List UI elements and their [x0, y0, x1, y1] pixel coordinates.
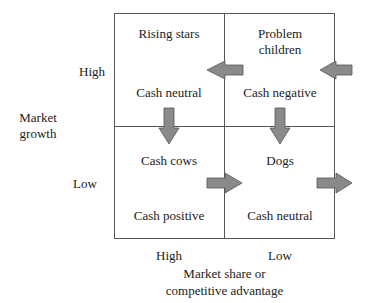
arrow-down-icon	[159, 108, 179, 144]
arrow-right-icon	[317, 173, 352, 193]
transition-arrows	[0, 0, 370, 303]
arrow-left-icon	[320, 61, 352, 79]
arrow-right-icon	[207, 173, 242, 193]
arrow-down-icon	[270, 108, 290, 144]
arrow-left-icon	[207, 61, 243, 79]
